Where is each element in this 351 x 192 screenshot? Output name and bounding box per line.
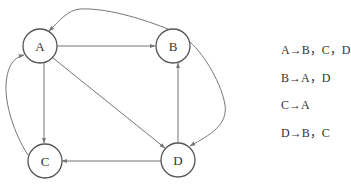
node-d-label: D — [173, 153, 182, 168]
adjacency-entry-c: C→A — [281, 96, 350, 124]
adjacency-entry-d: D→B，C — [281, 124, 350, 152]
adjacency-entry-b: B→A，D — [281, 69, 350, 97]
node-d: D — [161, 143, 195, 177]
edge-a-to-d — [53, 58, 165, 148]
adjacency-list: A→B，C，D B→A，D C→A D→B，C — [281, 41, 350, 151]
node-a-label: A — [35, 39, 45, 54]
node-b: B — [156, 29, 190, 63]
adjacency-entry-a: A→B，C，D — [281, 41, 350, 69]
node-c-label: C — [41, 154, 50, 169]
node-b-label: B — [169, 39, 178, 54]
node-c: C — [28, 144, 62, 178]
node-a: A — [23, 29, 57, 63]
edge-c-to-a — [6, 55, 28, 155]
edge-b-to-d — [190, 42, 225, 146]
edge-b-to-a — [49, 9, 168, 31]
